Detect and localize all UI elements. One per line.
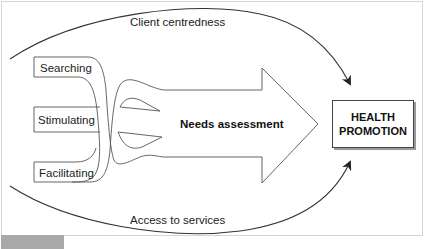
health-promotion-line2: PROMOTION (339, 124, 407, 138)
input-facilitating-label: Facilitating (39, 167, 94, 179)
stimulating-upper-wedge (120, 98, 160, 111)
client-centredness-label: Client centredness (130, 16, 225, 28)
input-searching-label: Searching (40, 62, 92, 74)
needs-assessment-label: Needs assessment (180, 118, 284, 130)
health-promotion-line1: HEALTH (351, 110, 395, 124)
input-stimulating-label: Stimulating (38, 114, 95, 126)
facilitating-box-top (34, 148, 96, 162)
access-to-services-label: Access to services (130, 214, 225, 226)
stimulating-lower-wedge (118, 132, 162, 148)
health-promotion-box: HEALTH PROMOTION (332, 100, 414, 148)
